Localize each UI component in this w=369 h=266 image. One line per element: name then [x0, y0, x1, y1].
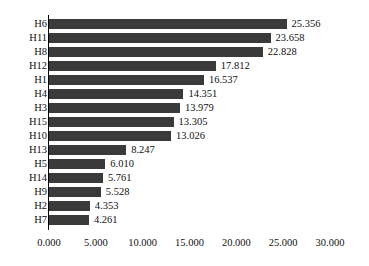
category-label-h10: H10 — [29, 129, 47, 143]
bar-row: H95.528 — [0, 185, 369, 199]
bar-h12 — [49, 61, 216, 71]
bar-h11 — [49, 33, 271, 43]
x-tick-label: 20.000 — [222, 236, 251, 249]
bar-value-label: 13.979 — [185, 101, 214, 115]
category-label-h7: H7 — [34, 213, 47, 227]
bar-fill — [49, 75, 204, 85]
bar-value-label: 5.528 — [106, 185, 130, 199]
bar-value-label: 25.356 — [292, 17, 321, 31]
bar-chart: H625.356H1123.658H822.828H1217.812H116.5… — [0, 0, 369, 266]
bar-fill — [49, 89, 183, 99]
x-tick-label: 15.000 — [175, 236, 204, 249]
bar-value-label: 23.658 — [276, 31, 305, 45]
bar-h15 — [49, 117, 174, 127]
bar-fill — [49, 187, 101, 197]
bar-fill — [49, 201, 90, 211]
bar-row: H414.351 — [0, 87, 369, 101]
bar-value-label: 13.305 — [179, 115, 208, 129]
category-label-h15: H15 — [29, 115, 47, 129]
category-label-h2: H2 — [34, 199, 47, 213]
x-tick-label: 30.000 — [316, 236, 345, 249]
bar-row: H313.979 — [0, 101, 369, 115]
bar-h4 — [49, 89, 183, 99]
bar-value-label: 8.247 — [131, 143, 155, 157]
category-label-h3: H3 — [34, 101, 47, 115]
bar-row: H116.537 — [0, 73, 369, 87]
category-label-h1: H1 — [34, 73, 47, 87]
bar-value-label: 16.537 — [209, 73, 238, 87]
plot-area: H625.356H1123.658H822.828H1217.812H116.5… — [0, 0, 369, 232]
bar-fill — [49, 145, 126, 155]
bar-h10 — [49, 131, 171, 141]
bar-h7 — [49, 215, 89, 225]
bar-value-label: 22.828 — [268, 45, 297, 59]
category-label-h9: H9 — [34, 185, 47, 199]
bar-row: H145.761 — [0, 171, 369, 185]
category-label-h4: H4 — [34, 87, 47, 101]
category-label-h12: H12 — [29, 59, 47, 73]
bar-fill — [49, 19, 287, 29]
x-tick-label: 10.000 — [128, 236, 157, 249]
bar-h14 — [49, 173, 103, 183]
bar-fill — [49, 103, 180, 113]
bar-row: H24.353 — [0, 199, 369, 213]
category-label-h6: H6 — [34, 17, 47, 31]
bar-fill — [49, 159, 105, 169]
bar-fill — [49, 215, 89, 225]
bar-value-label: 4.353 — [95, 199, 119, 213]
category-label-h8: H8 — [34, 45, 47, 59]
bar-fill — [49, 131, 171, 141]
bar-fill — [49, 117, 174, 127]
bar-row: H1513.305 — [0, 115, 369, 129]
bar-value-label: 6.010 — [110, 157, 134, 171]
bar-row: H822.828 — [0, 45, 369, 59]
category-label-h11: H11 — [29, 31, 47, 45]
bar-h2 — [49, 201, 90, 211]
category-label-h5: H5 — [34, 157, 47, 171]
x-tick-label: 25.000 — [269, 236, 298, 249]
bar-row: H1217.812 — [0, 59, 369, 73]
bar-h8 — [49, 47, 263, 57]
bar-row: H1013.026 — [0, 129, 369, 143]
bar-row: H625.356 — [0, 17, 369, 31]
bar-h5 — [49, 159, 105, 169]
x-tick-label: 0.000 — [37, 236, 61, 249]
bar-value-label: 4.261 — [94, 213, 118, 227]
category-label-h14: H14 — [29, 171, 47, 185]
bar-fill — [49, 47, 263, 57]
bar-h13 — [49, 145, 126, 155]
category-label-h13: H13 — [29, 143, 47, 157]
bar-h9 — [49, 187, 101, 197]
bar-row: H56.010 — [0, 157, 369, 171]
bar-h6 — [49, 19, 287, 29]
bar-value-label: 17.812 — [221, 59, 250, 73]
bar-row: H74.261 — [0, 213, 369, 227]
bar-value-label: 5.761 — [108, 171, 132, 185]
bar-value-label: 13.026 — [176, 129, 205, 143]
bar-value-label: 14.351 — [188, 87, 217, 101]
bar-h1 — [49, 75, 204, 85]
bar-row: H138.247 — [0, 143, 369, 157]
bar-fill — [49, 61, 216, 71]
x-tick-label: 5.000 — [84, 236, 108, 249]
bar-fill — [49, 173, 103, 183]
bar-fill — [49, 33, 271, 43]
bar-h3 — [49, 103, 180, 113]
bar-row: H1123.658 — [0, 31, 369, 45]
x-axis: 0.0005.00010.00015.00020.00025.00030.000 — [0, 232, 369, 266]
